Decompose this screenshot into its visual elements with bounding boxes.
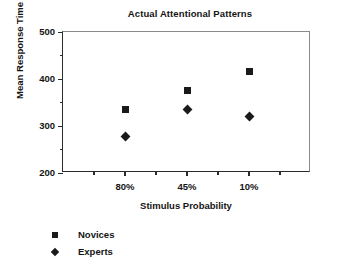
tick-mark	[248, 171, 249, 176]
chart-figure: Actual Attentional Patterns Mean Respons…	[0, 0, 337, 270]
plot-area: 500400300200 80%45%10%	[62, 31, 310, 172]
legend-marker-square-icon	[44, 232, 66, 238]
legend-marker-diamond-icon	[44, 249, 66, 255]
y-tick-label: 400	[21, 73, 55, 84]
legend-label: Novices	[78, 229, 114, 240]
tick-mark	[217, 171, 218, 175]
x-axis-label: Stimulus Probability	[62, 200, 310, 211]
y-axis-label: Mean Response Time (in ms)	[14, 0, 25, 109]
chart-title: Actual Attentional Patterns	[60, 8, 320, 19]
tick-mark	[155, 171, 156, 175]
legend-swatch	[51, 247, 59, 255]
data-point-novices-80pct	[122, 106, 129, 113]
data-point-novices-45pct	[184, 87, 191, 94]
x-tick-label: 10%	[223, 181, 275, 192]
x-tick-label: 80%	[99, 181, 151, 192]
x-tick-label: 45%	[161, 181, 213, 192]
tick-mark	[124, 171, 125, 176]
legend-swatch	[52, 232, 58, 238]
legend-label: Experts	[78, 246, 113, 257]
legend-item-novices[interactable]: Novices	[44, 226, 114, 243]
y-tick-label: 300	[21, 120, 55, 131]
tick-mark	[186, 171, 187, 176]
chart-legend: NovicesExperts	[44, 226, 114, 260]
tick-mark	[58, 126, 63, 127]
y-tick-label: 500	[21, 26, 55, 37]
data-point-experts-80pct	[120, 132, 130, 142]
data-point-experts-45pct	[182, 104, 192, 114]
tick-mark	[60, 102, 63, 103]
data-point-experts-10pct	[244, 111, 254, 121]
tick-mark	[93, 171, 94, 175]
y-tick-label: 200	[21, 167, 55, 178]
tick-mark	[60, 149, 63, 150]
tick-mark	[60, 55, 63, 56]
data-point-novices-10pct	[246, 68, 253, 75]
tick-mark	[58, 32, 63, 33]
legend-item-experts[interactable]: Experts	[44, 243, 114, 260]
tick-mark	[58, 173, 63, 174]
tick-mark	[58, 79, 63, 80]
tick-mark	[279, 171, 280, 175]
